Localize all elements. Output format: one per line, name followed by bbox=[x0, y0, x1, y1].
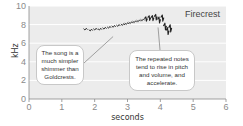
species-title: Firecrest bbox=[185, 9, 221, 19]
x-tick-label: 3 bbox=[125, 102, 130, 112]
callout-line: The song is a bbox=[41, 49, 78, 57]
callout-line: shimmer than bbox=[41, 65, 78, 73]
y-tick-label: 2 bbox=[21, 75, 26, 85]
x-tick-label: 0 bbox=[26, 102, 31, 112]
x-tick-label: 2 bbox=[92, 102, 97, 112]
x-tick-label: 1 bbox=[59, 102, 64, 112]
callout-line: accelerate. bbox=[135, 79, 189, 87]
callout-line: Goldcrests. bbox=[41, 73, 78, 81]
y-tick-label: 10 bbox=[16, 1, 26, 11]
x-tick-label: 4 bbox=[158, 102, 163, 112]
callout-line: tend to rise in pitch bbox=[135, 63, 189, 71]
y-axis-label: kHz bbox=[11, 43, 20, 58]
y-tick-label: 0 bbox=[21, 94, 26, 104]
callout-simpler-shimmer: The song is a much simpler shimmer than … bbox=[36, 45, 84, 85]
y-tick-label: 8 bbox=[21, 20, 26, 30]
x-tick-label: 5 bbox=[191, 102, 196, 112]
y-tick-label: 4 bbox=[21, 57, 26, 67]
callout-line: and volume, and bbox=[135, 71, 189, 79]
callout-line: much simpler bbox=[41, 57, 78, 65]
x-tick-labels: 0123456 bbox=[26, 102, 228, 112]
x-axis-label: seconds bbox=[111, 113, 144, 122]
y-tick-label: 6 bbox=[21, 38, 26, 48]
callout-line: The repeated notes bbox=[135, 55, 189, 63]
x-tick-label: 6 bbox=[223, 102, 228, 112]
callout-repeated-notes: The repeated notes tend to rise in pitch… bbox=[129, 50, 195, 91]
